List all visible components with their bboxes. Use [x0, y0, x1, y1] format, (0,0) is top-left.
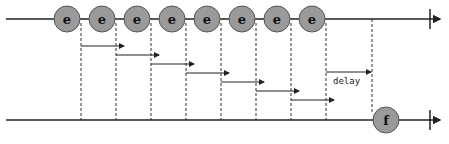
input-marble: e	[89, 6, 115, 32]
marble-label: e	[238, 12, 246, 27]
input-stream: e e e e e e e e	[6, 6, 440, 32]
input-marble: e	[299, 6, 325, 32]
input-marble: e	[54, 6, 80, 32]
output-stream: f	[6, 107, 440, 133]
marble-label: e	[133, 12, 141, 27]
input-marble: e	[229, 6, 255, 32]
marble-label: e	[203, 12, 211, 27]
dashed-guides	[81, 19, 372, 120]
input-marble: e	[264, 6, 290, 32]
marble-diagram: delay e e e e e e e	[0, 0, 449, 144]
input-marble: e	[124, 6, 150, 32]
marble-label: e	[168, 12, 176, 27]
output-marble: f	[373, 107, 399, 133]
marble-label: e	[308, 12, 316, 27]
delay-label: delay	[333, 76, 361, 86]
input-marble: e	[194, 6, 220, 32]
marble-label: e	[63, 12, 71, 27]
marble-label: e	[273, 12, 281, 27]
delay-arrows	[81, 46, 371, 100]
input-marble: e	[159, 6, 185, 32]
marble-label: e	[98, 12, 106, 27]
